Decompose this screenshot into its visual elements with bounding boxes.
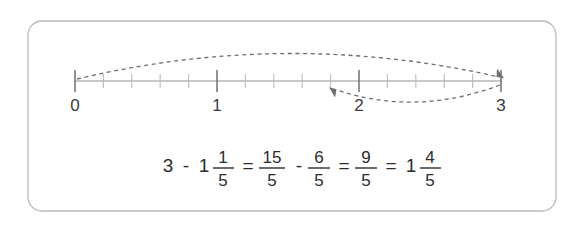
eq-term-result-whole-1: 1 [406,155,417,176]
eq-operator-minus-1: - [183,155,189,176]
eq-term-fraction-denominator-15: 5 [267,171,276,190]
figure-border [28,21,556,211]
axis-label-3: 3 [496,96,505,115]
axis-label-2: 2 [354,96,363,115]
eq-term-fraction-numerator-6: 6 [314,148,323,167]
figure-canvas: 0 1 2 3 3 - 1 1 5 = 15 5 - 6 5 [0,0,585,229]
eq-term-result-denominator-5: 5 [425,171,434,190]
eq-term-fraction-denominator-9: 5 [361,171,370,190]
eq-term-mixed-whole-1: 1 [199,155,210,176]
axis-label-1: 1 [212,96,221,115]
eq-term-mixed-numerator-1: 1 [218,148,227,167]
eq-term-mixed-denominator-1: 5 [218,171,227,190]
eq-operator-minus-2: - [296,155,302,176]
axis-label-0: 0 [70,96,79,115]
number-line-figure: 0 1 2 3 3 - 1 1 5 = 15 5 - 6 5 [0,0,585,229]
eq-term-result-numerator-4: 4 [425,148,434,167]
eq-term-fraction-denominator-6: 5 [314,171,323,190]
eq-operator-equals-1: = [242,155,253,176]
eq-operator-equals-3: = [385,155,396,176]
eq-term-whole-3: 3 [163,155,174,176]
eq-term-fraction-numerator-15: 15 [263,148,282,167]
eq-operator-equals-2: = [338,155,349,176]
eq-term-fraction-numerator-9: 9 [361,148,370,167]
